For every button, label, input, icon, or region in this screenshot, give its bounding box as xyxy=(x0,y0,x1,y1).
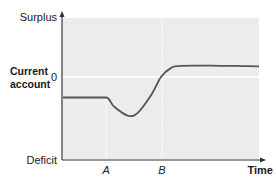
x-axis-arrow-icon xyxy=(260,158,266,163)
marker-label-b: B xyxy=(158,164,165,176)
marker-label-a: A xyxy=(101,164,109,176)
x-axis-label: Time xyxy=(248,164,273,176)
y-bottom-label: Deficit xyxy=(26,154,57,166)
zero-label: 0 xyxy=(51,71,57,83)
y-axis-label-line1: Current xyxy=(10,65,48,77)
y-top-label: Surplus xyxy=(20,11,58,23)
y-axis-label-line2: account xyxy=(10,78,51,90)
j-curve-chart: Surplus Current account 0 Deficit A B Ti… xyxy=(0,0,276,183)
plot-area xyxy=(63,18,259,159)
y-axis-arrow-icon xyxy=(60,11,65,17)
